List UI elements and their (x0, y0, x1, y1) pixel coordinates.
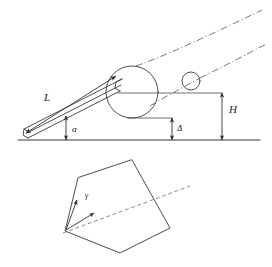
label-rotation-angle: γ (85, 192, 88, 200)
pentagon-axis-dashed-line (63, 186, 190, 233)
length-dimension-L-arrow (26, 76, 116, 133)
lower-dash-dot-trajectory-left (150, 78, 200, 106)
figure-canvas (0, 0, 272, 267)
lower-pentagon-view (63, 160, 190, 253)
label-gap: Δ (177, 124, 182, 133)
upper-side-elevation-view (18, 10, 266, 140)
figure-root: L H α Δ γ (0, 0, 272, 267)
pentagon-outline (65, 160, 170, 253)
large-ball (106, 66, 158, 118)
label-rod-length: L (44, 92, 50, 103)
upper-dash-dot-trajectory (136, 10, 262, 66)
label-height: H (229, 104, 237, 115)
small-ball (182, 72, 200, 90)
label-incline-angle: α (72, 125, 77, 134)
gamma-arrow-lower (66, 213, 94, 230)
lower-dash-dot-trajectory-right (200, 44, 266, 78)
